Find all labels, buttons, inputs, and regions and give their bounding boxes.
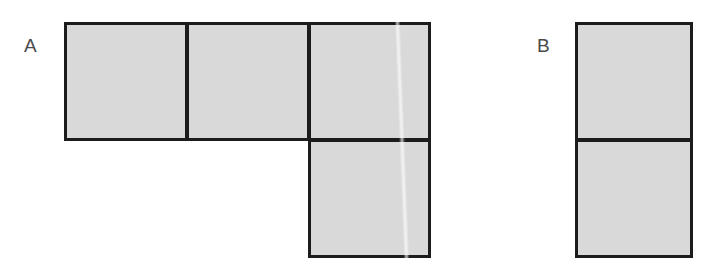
b-cell-top (575, 22, 693, 141)
shape-label-b: B (537, 36, 550, 55)
b-cell-bottom (575, 139, 693, 258)
a-cell-bottom (308, 139, 431, 258)
a-cell-top-middle (186, 22, 310, 141)
a-cell-top-right (308, 22, 431, 141)
figure-canvas: AB (0, 0, 707, 274)
a-cell-top-left (64, 22, 188, 141)
